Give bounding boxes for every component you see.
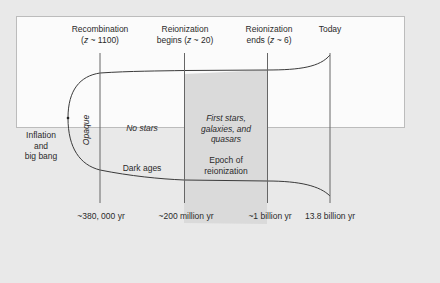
no-stars-label: No stars [112,123,172,134]
epoch-of-reionization-label: Epoch of reionization [186,155,266,176]
opaque-label: Opaque [81,110,91,150]
reionization-ends-label: Reionization ends (z ~ 6) [231,24,307,45]
start-line1: Inflation [20,130,62,141]
recombination-label: Recombination (z ~ 1100) [62,24,138,45]
first-stars-label: First stars, galaxies, and quasars [186,113,266,145]
reionization-ends-label-line2: ends (z ~ 6) [231,35,307,46]
inflation-big-bang-label: Inflation and big bang [20,130,62,162]
today-label-line1: Today [300,24,360,35]
first-stars-line2: galaxies, and [186,124,266,135]
time-today: 13.8 billion yr [290,211,370,222]
time-recombination: ~380, 000 yr [64,211,138,222]
reionization-begins-label-line1: Reionization [147,24,223,35]
reionization-begins-label-line2: begins (z ~ 20) [147,35,223,46]
reionization-shading [184,70,267,224]
recombination-label-line1: Recombination [62,24,138,35]
first-stars-line1: First stars, [186,113,266,124]
dark-ages-label: Dark ages [112,163,172,174]
today-label: Today [300,24,360,35]
start-line2: and [20,141,62,152]
first-stars-line3: quasars [186,134,266,145]
time-reionization-begins: ~200 million yr [148,211,224,222]
epoch-line1: Epoch of [186,155,266,166]
epoch-line2: reionization [186,166,266,177]
big-bang-point [67,117,70,120]
start-line3: big bang [20,151,62,162]
recombination-label-line2: (z ~ 1100) [62,35,138,46]
reionization-begins-label: Reionization begins (z ~ 20) [147,24,223,45]
reionization-ends-label-line1: Reionization [231,24,307,35]
